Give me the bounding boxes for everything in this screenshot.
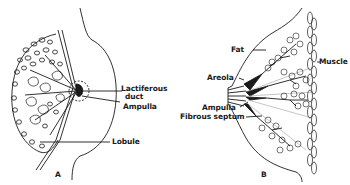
label-lactiferous-duct: Lactiferous duct [121,85,167,101]
panel-label-b: B [261,170,267,179]
diagram-artwork [0,0,350,185]
panel-label-a: A [55,170,61,179]
breast-anatomy-diagram: Lactiferous duct Ampulla Lobule A Fat Mu… [0,0,350,185]
label-fat: Fat [231,46,244,54]
label-muscle: Muscle [319,58,348,66]
label-areola: Areola [207,74,234,82]
label-fibrous-septum: Fibrous septum [180,113,245,121]
label-ampulla-b: Ampulla [202,104,236,112]
label-ampulla-a: Ampulla [123,103,157,111]
label-lobule: Lobule [112,138,140,146]
panel-a-drawing [12,8,123,180]
panel-b-drawing [228,8,320,182]
label-lactiferous-line2: duct [121,93,167,101]
